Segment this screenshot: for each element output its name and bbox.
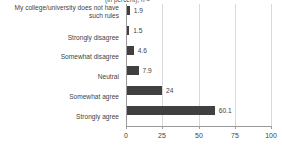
bar-value-label: 1.5 bbox=[133, 26, 142, 35]
x-tick-label: 50 bbox=[195, 131, 203, 140]
bar bbox=[127, 26, 129, 35]
x-tick-mark bbox=[126, 126, 127, 129]
bar-value-label: 1.9 bbox=[134, 6, 143, 15]
x-tick-mark bbox=[235, 126, 236, 129]
category-label: Strongly agree bbox=[0, 113, 119, 121]
bar bbox=[127, 86, 162, 95]
category-label: Neutral bbox=[0, 73, 119, 81]
category-axis-labels: My college/university does not have such… bbox=[0, 4, 122, 126]
bar bbox=[127, 46, 134, 55]
x-tick-label: 75 bbox=[231, 131, 239, 140]
category-label: Somewhat agree bbox=[0, 93, 119, 101]
x-tick-label: 100 bbox=[265, 131, 277, 140]
category-label: Somewhat disagree bbox=[0, 53, 119, 61]
x-tick-mark bbox=[271, 126, 272, 129]
x-tick-mark bbox=[199, 126, 200, 129]
bar-value-label: 4.6 bbox=[138, 46, 147, 55]
gridline-75 bbox=[235, 4, 236, 126]
x-tick-label: 0 bbox=[124, 131, 128, 140]
bar-chart: (in percent), n = My college/university … bbox=[0, 0, 282, 147]
plot-area: 1.9 1.5 4.6 7.9 24 60.1 bbox=[126, 4, 272, 126]
bar-value-label: 7.9 bbox=[143, 66, 152, 75]
bar bbox=[127, 66, 139, 75]
bar bbox=[127, 106, 215, 115]
bar-value-label: 60.1 bbox=[219, 106, 232, 115]
category-label: My college/university does not have such… bbox=[0, 4, 119, 19]
bar-value-label: 24 bbox=[166, 86, 173, 95]
gridline-100 bbox=[271, 4, 272, 126]
bar bbox=[127, 6, 130, 15]
x-tick-mark bbox=[162, 126, 163, 129]
category-label: Strongly disagree bbox=[0, 34, 119, 42]
x-tick-label: 25 bbox=[158, 131, 166, 140]
